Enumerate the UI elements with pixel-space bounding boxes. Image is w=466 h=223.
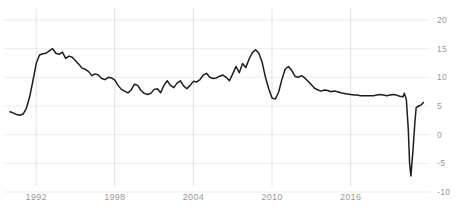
x-axis-tick-label: 1992 [26, 192, 47, 202]
y-axis-tick-label: 15 [437, 44, 447, 54]
x-gridlines [36, 8, 350, 186]
y-axis-tick-label: -5 [437, 158, 445, 168]
x-axis-tick-label: 2004 [183, 192, 204, 202]
chart-plot-area [0, 0, 466, 223]
y-axis-tick-label: -10 [437, 187, 450, 197]
y-axis-tick-label: 20 [437, 15, 447, 25]
y-axis-tick-label: 0 [437, 130, 442, 140]
series-line-1 [10, 49, 423, 176]
y-axis-tick-label: 5 [437, 101, 442, 111]
x-axis-tick-label: 1998 [104, 192, 125, 202]
line-chart: -10-505101520 19921998200420102016 [0, 0, 466, 223]
y-axis-tick-label: 10 [437, 72, 447, 82]
y-gridlines [4, 20, 430, 192]
x-axis-tick-label: 2010 [261, 192, 282, 202]
x-axis-tick-label: 2016 [340, 192, 361, 202]
